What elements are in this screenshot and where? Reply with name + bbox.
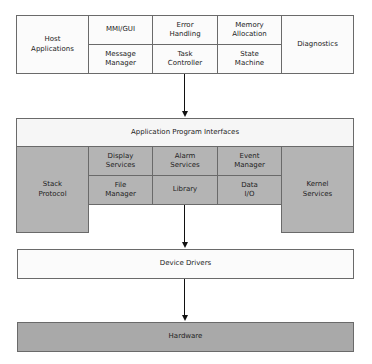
library-box: Library (152, 175, 218, 205)
memory-allocation-box: Memory Allocation (217, 15, 282, 45)
arrow-line-api-to-drivers (184, 205, 185, 243)
state-machine-box: State Machine (217, 44, 282, 74)
task-controller-box: Task Controller (152, 44, 218, 74)
kernel-services-box: Kernel Services (281, 146, 354, 233)
file-manager-box: File Manager (88, 175, 153, 205)
arrow-line-top-to-api (184, 74, 185, 112)
hardware-box: Hardware (17, 322, 354, 352)
arrow-head-icon (182, 242, 188, 248)
api-title-bar: Application Program Interfaces (16, 118, 354, 147)
arrow-head-icon (182, 315, 188, 321)
alarm-services-box: Alarm Services (152, 146, 218, 176)
host-applications-box: Host Applications (16, 15, 89, 74)
mmi-gui-box: MMI/GUI (88, 15, 153, 45)
diagnostics-box: Diagnostics (281, 15, 354, 74)
message-manager-box: Message Manager (88, 44, 153, 74)
data-io-box: Data I/O (217, 175, 282, 205)
stack-protocol-box: Stack Protocol (16, 146, 89, 233)
arrow-line-drivers-to-hardware (184, 279, 185, 316)
event-manager-box: Event Manager (217, 146, 282, 176)
error-handling-box: Error Handling (152, 15, 218, 45)
arrow-head-icon (182, 111, 188, 117)
device-drivers-box: Device Drivers (17, 249, 354, 279)
display-services-box: Display Services (88, 146, 153, 176)
